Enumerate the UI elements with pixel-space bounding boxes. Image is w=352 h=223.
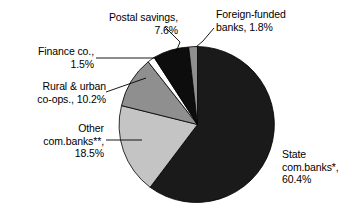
pie-chart-figure: Postal savings, 7.6% Foreign-funded bank… bbox=[0, 0, 352, 223]
leader-line-foreign-funded bbox=[196, 28, 214, 47]
pie-label-postal-savings: Postal savings, 7.6% bbox=[74, 11, 178, 36]
pie-label-finance-co: Finance co., 1.5% bbox=[10, 45, 94, 70]
pie-label-rural-urban-coops: Rural & urban co-ops., 10.2% bbox=[6, 80, 106, 105]
pie-label-state-com-banks: State com.banks*, 60.4% bbox=[282, 148, 352, 186]
pie-label-other-com-banks: Other com.banks**, 18.5% bbox=[10, 122, 104, 160]
pie-label-foreign-funded-banks: Foreign-funded banks, 1.8% bbox=[216, 8, 340, 33]
